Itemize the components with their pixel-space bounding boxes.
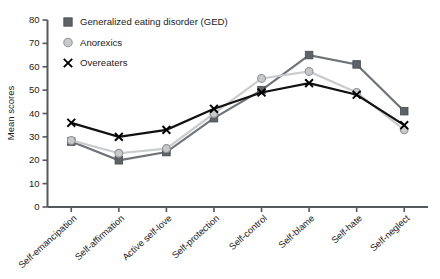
y-tick-label: 0 — [34, 201, 39, 212]
series-layer — [67, 51, 408, 164]
x-tick-label: Active self-love — [121, 213, 174, 262]
line-chart: 01020304050607080 Mean scores Self-emanc… — [0, 0, 440, 279]
series-line — [71, 55, 404, 160]
y-tick-label: 60 — [29, 61, 40, 72]
x-tick-label: Self-protection — [170, 213, 221, 261]
data-point-square — [305, 51, 313, 59]
y-tick-label: 40 — [29, 108, 40, 119]
legend-label: Anorexics — [80, 37, 122, 48]
y-tick-label: 70 — [29, 37, 40, 48]
series-1 — [67, 51, 408, 164]
series-2 — [67, 68, 408, 158]
data-point-circle — [305, 68, 313, 76]
x-tick-label: Self-blame — [277, 213, 317, 250]
x-tick-label: Self-neglect — [368, 213, 411, 254]
data-point-circle — [163, 145, 171, 153]
y-tick-label: 10 — [29, 178, 40, 189]
x-axis: Self-emancipationSelf-affirmationActive … — [17, 207, 428, 270]
square-marker-icon — [64, 18, 72, 26]
legend-item: Anorexics — [64, 37, 123, 48]
data-point-circle — [258, 75, 266, 83]
circle-marker-icon — [64, 38, 72, 46]
chart-legend: Generalized eating disorder (GED)Anorexi… — [64, 16, 228, 68]
legend-label: Overeaters — [80, 57, 128, 68]
x-tick-label: Self-control — [227, 213, 269, 252]
y-axis: 01020304050607080 Mean scores — [5, 14, 48, 212]
legend-label: Generalized eating disorder (GED) — [80, 16, 228, 27]
y-tick-label: 30 — [29, 131, 40, 142]
y-tick-label: 50 — [29, 84, 40, 95]
legend-item: Overeaters — [64, 57, 128, 68]
y-tick-label: 20 — [29, 154, 40, 165]
y-axis-title: Mean scores — [5, 86, 16, 141]
y-tick-label: 80 — [29, 14, 40, 25]
data-point-circle — [67, 136, 75, 144]
y-tick-group: 01020304050607080 — [29, 14, 48, 212]
x-tick-label-group: Self-emancipationSelf-affirmationActive … — [17, 213, 412, 270]
series-line — [71, 71, 404, 153]
data-point-square — [400, 107, 408, 115]
x-tick-label: Self-emancipation — [17, 213, 79, 270]
data-point-square — [353, 61, 361, 69]
data-point-circle — [115, 149, 123, 157]
x-tick-label: Self-affirmation — [73, 213, 126, 262]
x-tick-label: Self-hate — [330, 213, 364, 245]
chart-container: 01020304050607080 Mean scores Self-emanc… — [0, 0, 440, 279]
legend-item: Generalized eating disorder (GED) — [64, 16, 228, 27]
